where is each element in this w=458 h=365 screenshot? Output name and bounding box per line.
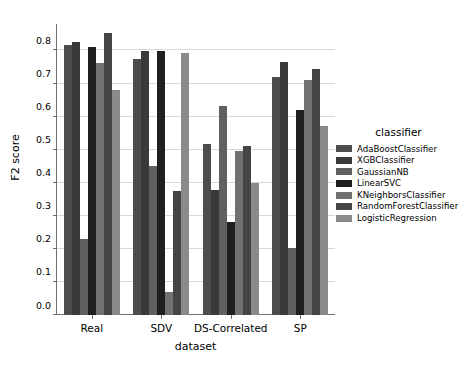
y-tick-label: 0.5 — [36, 134, 51, 145]
legend-title: classifier — [340, 126, 457, 138]
y-tick-mark — [53, 116, 57, 117]
y-tick-label: 0.6 — [36, 101, 51, 112]
x-tick-mark — [92, 315, 93, 319]
legend-swatch — [336, 215, 352, 222]
bar[interactable] — [304, 80, 312, 315]
y-axis-label-text: F2 score — [9, 134, 22, 180]
bar-group — [203, 24, 259, 315]
x-tick-mark — [300, 315, 301, 319]
bar[interactable] — [312, 69, 320, 315]
x-axis-label: dataset — [56, 340, 335, 353]
bar[interactable] — [80, 239, 88, 315]
y-tick-label: 0.0 — [36, 299, 51, 310]
legend-entry[interactable]: AdaBoostClassifier — [336, 143, 457, 155]
y-tick-label: 0.8 — [36, 34, 51, 45]
legend-entry[interactable]: KNeighborsClassifier — [336, 189, 457, 201]
legend-swatch — [336, 203, 352, 210]
bar[interactable] — [203, 144, 211, 315]
y-tick-mark — [53, 215, 57, 216]
bar[interactable] — [173, 191, 181, 315]
bar[interactable] — [112, 90, 120, 315]
y-axis-label: F2 score — [4, 0, 26, 315]
bar-group — [64, 24, 120, 315]
y-tick-mark — [53, 248, 57, 249]
y-tick-mark — [53, 281, 57, 282]
bar[interactable] — [64, 45, 72, 315]
bar[interactable] — [72, 42, 80, 315]
legend-label: RandomForestClassifier — [357, 202, 458, 211]
y-tick-label: 0.2 — [36, 233, 51, 244]
y-tick-label: 0.7 — [36, 68, 51, 79]
bar[interactable] — [141, 51, 149, 315]
y-tick-mark — [53, 83, 57, 84]
bar[interactable] — [165, 292, 173, 315]
bar[interactable] — [296, 110, 304, 315]
bar[interactable] — [243, 146, 251, 315]
legend-label: GaussianNB — [357, 168, 409, 177]
plot-area: 0.00.10.20.30.40.50.60.70.8 RealSDVDS-Co… — [56, 24, 335, 315]
y-tick-label: 0.4 — [36, 167, 51, 178]
x-axis-label-text: dataset — [175, 340, 217, 353]
bar-group — [272, 24, 328, 315]
legend-entry[interactable]: LogisticRegression — [336, 213, 457, 225]
bar[interactable] — [272, 77, 280, 315]
bar-group-bars — [64, 24, 120, 315]
bar[interactable] — [280, 62, 288, 315]
bar[interactable] — [104, 33, 112, 315]
legend-label: LinearSVC — [357, 179, 401, 188]
bar[interactable] — [88, 47, 96, 315]
x-tick-label: SP — [294, 322, 307, 334]
bar[interactable] — [149, 166, 157, 315]
legend-label: AdaBoostClassifier — [357, 145, 437, 154]
legend-label: LogisticRegression — [357, 214, 437, 223]
bar[interactable] — [96, 63, 104, 315]
bar[interactable] — [235, 151, 243, 315]
bar[interactable] — [320, 126, 328, 315]
legend-entries: AdaBoostClassifierXGBClassifierGaussianN… — [336, 143, 457, 224]
legend-swatch — [336, 180, 352, 187]
y-tick-label: 0.1 — [36, 266, 51, 277]
bar-group-bars — [203, 24, 259, 315]
x-tick-mark — [231, 315, 232, 319]
bar[interactable] — [133, 59, 141, 315]
legend-entry[interactable]: XGBClassifier — [336, 155, 457, 167]
bar[interactable] — [181, 53, 189, 315]
legend-swatch — [336, 192, 352, 199]
legend-entry[interactable]: LinearSVC — [336, 178, 457, 190]
y-tick-mark — [53, 49, 57, 50]
legend-swatch — [336, 168, 352, 175]
x-tick-label: SDV — [150, 322, 172, 334]
bar[interactable] — [227, 222, 235, 315]
x-tick-label: Real — [80, 322, 103, 334]
bar-group-bars — [133, 24, 189, 315]
x-tick-label: DS-Correlated — [194, 322, 268, 334]
legend: classifier AdaBoostClassifierXGBClassifi… — [336, 126, 457, 224]
bar-group-bars — [272, 24, 328, 315]
y-tick-mark — [53, 149, 57, 150]
y-tick-label: 0.3 — [36, 200, 51, 211]
bar[interactable] — [157, 51, 165, 315]
legend-label: KNeighborsClassifier — [357, 191, 446, 200]
legend-swatch — [336, 157, 352, 164]
legend-label: XGBClassifier — [357, 156, 415, 165]
bar[interactable] — [211, 190, 219, 315]
legend-swatch — [336, 145, 352, 152]
legend-entry[interactable]: GaussianNB — [336, 166, 457, 178]
bar[interactable] — [288, 248, 296, 315]
x-tick-mark — [161, 315, 162, 319]
bar-group — [133, 24, 189, 315]
legend-entry[interactable]: RandomForestClassifier — [336, 201, 457, 213]
bar[interactable] — [251, 183, 259, 315]
bar[interactable] — [219, 106, 227, 315]
y-tick-mark — [53, 182, 57, 183]
